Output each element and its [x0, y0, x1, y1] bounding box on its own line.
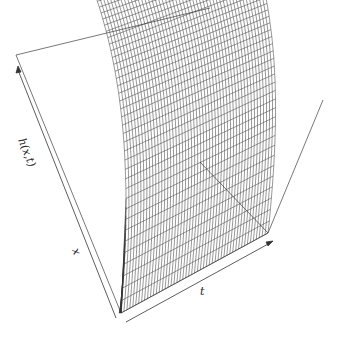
- t-axis-label: t: [200, 285, 205, 298]
- x-axis-arrow: [18, 70, 116, 318]
- axis-arrows: [16, 66, 273, 322]
- arrowhead-icon: [16, 66, 21, 73]
- wireframe-surface: [69, 0, 275, 313]
- arrowhead-icon: [266, 241, 273, 246]
- surface-plot: h(x,t) x t: [0, 0, 341, 339]
- surface-mesh: [69, 0, 275, 313]
- z-axis-label: h(x,t): [15, 136, 38, 168]
- x-axis-label: x: [69, 246, 84, 257]
